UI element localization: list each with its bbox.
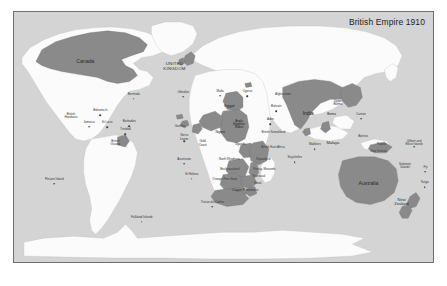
map-marker-dot — [141, 221, 143, 223]
south-america-land — [84, 135, 138, 234]
map-title: British Empire 1910 — [346, 16, 428, 28]
map-marker-dot — [128, 125, 130, 127]
empire-burma — [340, 83, 362, 107]
map-marker-dot — [360, 118, 362, 120]
map-marker-dot — [275, 110, 277, 112]
empire-united-kingdom — [183, 52, 195, 66]
map-page: British Empire 1910 CanadaUNITED KINGDOM… — [0, 0, 447, 286]
world-map-panel[interactable]: British Empire 1910 CanadaUNITED KINGDOM… — [13, 11, 434, 263]
map-marker-dot — [183, 140, 185, 142]
map-marker-dot — [125, 133, 127, 135]
map-marker-dot — [133, 98, 135, 100]
empire-cyprus — [245, 82, 252, 87]
map-marker-dot — [424, 186, 426, 188]
map-marker-dot — [191, 178, 193, 180]
map-marker-dot — [53, 183, 55, 185]
empire-natal — [245, 187, 257, 197]
map-marker-dot — [425, 171, 427, 173]
empire-gambia — [176, 114, 183, 119]
map-marker-dot — [211, 206, 213, 208]
world-map-graphic — [14, 12, 433, 262]
map-marker-dot — [247, 95, 249, 97]
map-marker-dot — [219, 95, 221, 97]
map-marker-dot — [314, 148, 316, 150]
map-marker-dot — [413, 146, 415, 148]
map-marker-dot — [182, 96, 184, 98]
map-marker-dot — [100, 114, 102, 116]
map-marker-dot — [88, 126, 90, 128]
map-marker-dot — [183, 163, 185, 165]
antarctica-land — [24, 224, 372, 259]
empire-sierra-leone — [180, 120, 189, 128]
map-marker-dot — [294, 161, 296, 163]
map-marker-dot — [270, 123, 272, 125]
map-marker-dot — [106, 126, 108, 128]
